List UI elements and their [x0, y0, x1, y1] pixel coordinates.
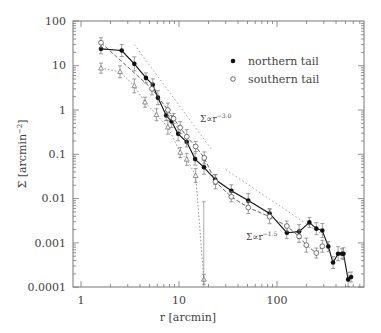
reference-line [226, 170, 325, 237]
filled-circle-marker [314, 226, 319, 231]
y-tick-100: 100 [45, 15, 66, 28]
annotation-slope-3: Σ∝r−3.0 [200, 112, 232, 124]
legend-label-south: southern tail [248, 73, 320, 86]
filled-circle-marker [132, 62, 137, 67]
filled-circle-marker [193, 157, 198, 162]
x-tick-10: 10 [172, 294, 186, 307]
legend: northern tail southern tail [231, 55, 320, 86]
y-tick-1: 1 [59, 104, 66, 117]
triangle-marker [165, 125, 170, 129]
open-circle-marker [202, 155, 207, 160]
y-tick-0.001: 0.001 [35, 237, 67, 250]
open-circle-marker [246, 205, 251, 210]
y-tick-10: 10 [52, 59, 66, 72]
surface-density-plot: 100 10 1 0.1 0.01 0.001 0.0001 1 10 100 … [0, 0, 381, 333]
y-axis-label: Σ [arcmin−2] [16, 119, 29, 188]
filled-circle-marker [341, 251, 346, 256]
open-circle-marker [320, 244, 325, 249]
open-circle-marker [314, 251, 319, 256]
y-tick-labels: 100 10 1 0.1 0.01 0.001 0.0001 [28, 15, 67, 294]
open-circle-marker [297, 234, 302, 239]
x-tick-labels: 1 10 100 [78, 294, 288, 307]
filled-circle-marker [349, 275, 354, 280]
open-circle-marker [267, 214, 272, 219]
reference-line [134, 45, 212, 151]
filled-circle-marker [336, 251, 341, 256]
open-circle-marker [165, 108, 170, 113]
series-line [101, 68, 204, 279]
y-axis-label-main: Σ [arcmin [16, 134, 29, 189]
y-tick-0.1: 0.1 [49, 148, 67, 161]
triangle-marker [132, 83, 137, 87]
open-circle-marker [150, 86, 155, 91]
open-circle-marker [304, 243, 309, 248]
legend-filled-circle-icon [231, 59, 236, 64]
y-tick-0.01: 0.01 [42, 192, 67, 205]
triangle-marker [99, 66, 104, 70]
open-circle-marker [193, 144, 198, 149]
open-circle-marker [184, 134, 189, 139]
svg-text:Σ [arcmin−2]: Σ [arcmin−2] [16, 119, 29, 188]
triangle-marker [193, 173, 198, 177]
open-circle-marker [213, 179, 218, 184]
filled-circle-marker [331, 260, 336, 265]
open-circle-marker [229, 194, 234, 199]
y-axis-label-sup: −2 [16, 124, 24, 134]
filled-circle-marker [144, 76, 149, 81]
x-tick-1: 1 [78, 294, 85, 307]
open-circle-marker [178, 125, 183, 130]
open-circle-marker [99, 40, 104, 45]
filled-circle-marker [202, 165, 207, 170]
legend-open-circle-icon [231, 77, 236, 82]
triangle-marker [178, 150, 183, 154]
open-circle-marker [284, 224, 289, 229]
filled-circle-marker [326, 244, 331, 249]
filled-circle-marker [307, 220, 312, 225]
legend-label-north: northern tail [248, 55, 319, 68]
y-tick-0.0001: 0.0001 [28, 281, 67, 294]
triangle-marker [184, 157, 189, 161]
x-axis-label: r [arcmin] [160, 311, 216, 324]
filled-circle-marker [320, 228, 325, 233]
y-axis-label-close: ] [16, 119, 29, 123]
filled-circle-marker [119, 48, 124, 53]
open-circle-marker [171, 116, 176, 121]
x-tick-100: 100 [267, 294, 288, 307]
annotation-slope-1.5: Σ∝r−1.5 [246, 230, 278, 242]
triangle-marker [154, 112, 159, 116]
